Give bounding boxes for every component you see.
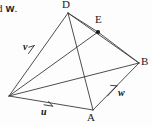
vector-label-w: w <box>118 87 125 98</box>
arrowhead-v <box>29 46 35 54</box>
tetrahedron-diagram <box>0 0 152 127</box>
point-marker-e <box>96 30 100 34</box>
vertex-label-e: E <box>95 13 102 25</box>
vertex-label-b: B <box>141 55 148 67</box>
vertex-label-d: D <box>62 0 70 10</box>
vector-label-u: u <box>41 106 47 117</box>
edge-c-a <box>9 96 93 110</box>
edge-e-b <box>98 32 139 63</box>
figure-screenshot: d w. D E B A v u w <box>0 0 152 127</box>
vector-label-v: v <box>23 41 27 52</box>
vertex-label-a: A <box>87 111 95 123</box>
arrowhead-w <box>108 85 118 96</box>
